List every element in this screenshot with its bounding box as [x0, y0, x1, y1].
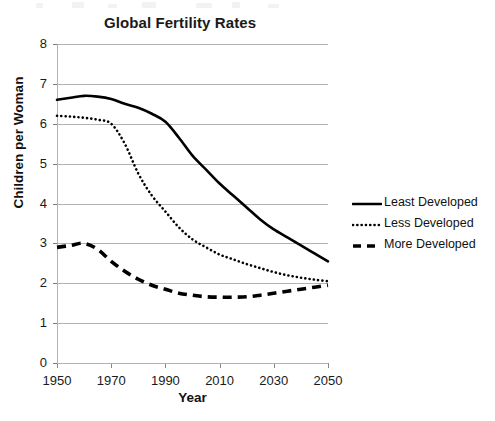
chart-title: Global Fertility Rates	[0, 14, 360, 31]
y-tick-label-7: 7	[17, 77, 47, 90]
plot-area	[57, 44, 328, 363]
y-tick-label-1: 1	[17, 316, 47, 329]
legend-swatch-dotted	[352, 217, 382, 229]
x-tick-label-1990: 1990	[140, 374, 190, 387]
y-tick-label-3: 3	[17, 236, 47, 249]
legend-swatch-dashed	[352, 238, 382, 250]
legend-label: More Developed	[384, 237, 476, 251]
legend-item-less-developed[interactable]: Less Developed	[352, 212, 478, 233]
x-tick-label-2030: 2030	[249, 374, 299, 387]
series-line-more-developed	[57, 243, 328, 297]
legend-swatch-solid	[352, 196, 382, 208]
series-line-least-developed	[57, 96, 328, 262]
series-line-less-developed	[57, 116, 328, 281]
y-axis-title: Children per Woman	[11, 33, 26, 253]
legend-item-more-developed[interactable]: More Developed	[352, 233, 478, 254]
x-tick-label-2050: 2050	[303, 374, 353, 387]
y-tick-label-6: 6	[17, 117, 47, 130]
legend-item-least-developed[interactable]: Least Developed	[352, 191, 478, 212]
y-tick-label-0: 0	[17, 356, 47, 369]
chart-page: Global Fertility Rates Children per Woma…	[0, 0, 495, 421]
series-lines	[57, 44, 328, 363]
x-tick-label-2010: 2010	[195, 374, 245, 387]
y-tick-label-2: 2	[17, 276, 47, 289]
x-tick-label-1970: 1970	[86, 374, 136, 387]
legend-label: Less Developed	[384, 216, 474, 230]
gridline-y-0	[57, 363, 328, 364]
legend-label: Least Developed	[384, 195, 478, 209]
y-tick-label-5: 5	[17, 157, 47, 170]
x-tick-mark-2050	[328, 363, 329, 368]
x-axis-title: Year	[57, 390, 328, 405]
y-tick-label-4: 4	[17, 197, 47, 210]
y-tick-label-8: 8	[17, 37, 47, 50]
chart-legend: Least DevelopedLess DevelopedMore Develo…	[352, 191, 478, 254]
x-tick-label-1950: 1950	[32, 374, 82, 387]
